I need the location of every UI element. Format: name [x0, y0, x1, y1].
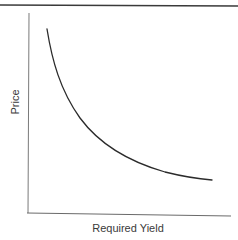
x-axis-label: Required Yield [92, 222, 164, 234]
top-rule [0, 5, 238, 6]
x-axis-line [27, 213, 231, 216]
price-yield-curve [47, 29, 212, 180]
chart-svg: Price Required Yield [0, 0, 238, 240]
y-axis-label: Price [9, 89, 21, 114]
price-yield-chart: Price Required Yield [0, 0, 238, 240]
y-axis-line [28, 13, 29, 213]
